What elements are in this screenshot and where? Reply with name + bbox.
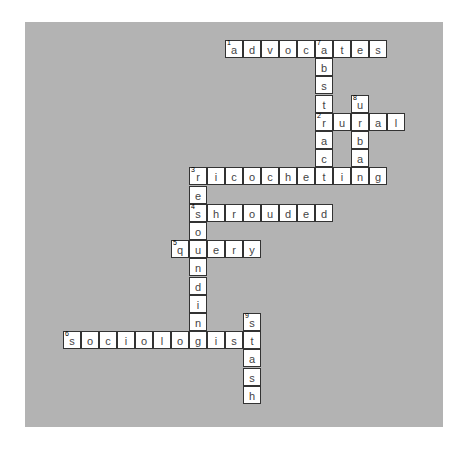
cell-letter: c [316, 150, 332, 168]
cell-letter: a [316, 132, 332, 150]
cell-letter: a [370, 114, 386, 132]
crossword-cell[interactable]: i [189, 295, 207, 313]
crossword-cell[interactable]: u [261, 204, 279, 222]
crossword-cell[interactable]: 3r [189, 167, 207, 185]
crossword-cell[interactable]: y [243, 240, 261, 258]
crossword-cell[interactable]: n [189, 313, 207, 331]
crossword-cell[interactable]: o [81, 331, 99, 349]
crossword-cell[interactable]: i [207, 331, 225, 349]
crossword-cell[interactable]: 9s [243, 313, 261, 331]
crossword-cell[interactable]: i [333, 167, 351, 185]
crossword-cell[interactable]: s [243, 368, 261, 386]
crossword-cell[interactable]: t [315, 167, 333, 185]
crossword-cell[interactable]: d [189, 277, 207, 295]
crossword-cell[interactable]: a [315, 131, 333, 149]
crossword-cell[interactable]: t [333, 40, 351, 58]
crossword-cell[interactable]: s [315, 76, 333, 94]
cell-letter: s [226, 332, 242, 350]
crossword-cell[interactable]: c [99, 331, 117, 349]
crossword-cell[interactable]: d [315, 204, 333, 222]
crossword-cell[interactable]: b [351, 131, 369, 149]
cell-letter: u [334, 114, 350, 132]
cell-letter: s [370, 41, 386, 59]
crossword-cell[interactable]: o [189, 222, 207, 240]
crossword-cell[interactable]: s [225, 331, 243, 349]
crossword-cell[interactable]: a [243, 349, 261, 367]
crossword-cell[interactable]: n [189, 258, 207, 276]
crossword-cell[interactable]: 1a [225, 40, 243, 58]
crossword-cell[interactable]: c [315, 149, 333, 167]
cell-letter: o [172, 332, 188, 350]
crossword-cell[interactable]: r [225, 240, 243, 258]
crossword-cell[interactable]: e [297, 167, 315, 185]
crossword-cell[interactable]: b [315, 58, 333, 76]
crossword-cell[interactable]: n [351, 167, 369, 185]
cell-letter: u [190, 241, 206, 259]
cell-letter: o [190, 223, 206, 241]
crossword-cell[interactable]: h [279, 167, 297, 185]
crossword-cell[interactable]: o [135, 331, 153, 349]
cell-letter: l [388, 114, 404, 132]
crossword-cell[interactable]: o [279, 40, 297, 58]
crossword-cell[interactable]: c [225, 167, 243, 185]
crossword-cell[interactable]: 2r [315, 113, 333, 131]
crossword-cell[interactable]: 8u [351, 95, 369, 113]
crossword-cell[interactable]: d [243, 40, 261, 58]
crossword-cell[interactable]: s [369, 40, 387, 58]
cell-letter: h [208, 205, 224, 223]
crossword-cell[interactable]: g [369, 167, 387, 185]
clue-number: 3 [191, 165, 195, 175]
crossword-cell[interactable]: l [153, 331, 171, 349]
crossword-cell[interactable]: g [189, 331, 207, 349]
cell-letter: i [118, 332, 134, 350]
crossword-cell[interactable]: r [225, 204, 243, 222]
crossword-cell[interactable]: h [207, 204, 225, 222]
cell-letter: i [190, 296, 206, 314]
crossword-cell[interactable]: t [243, 331, 261, 349]
crossword-cell[interactable]: l [387, 113, 405, 131]
cell-letter: b [316, 59, 332, 77]
cell-letter: o [244, 205, 260, 223]
crossword-cell[interactable]: e [297, 204, 315, 222]
crossword-cell[interactable]: 6s [63, 331, 81, 349]
cell-letter: r [352, 114, 368, 132]
crossword-cell[interactable]: u [333, 113, 351, 131]
crossword-board: 1advoc7atesbst2ract8urbanual3ricocheige4… [25, 22, 443, 427]
cell-letter: e [298, 205, 314, 223]
crossword-cell[interactable]: i [207, 167, 225, 185]
cell-letter: s [244, 369, 260, 387]
cell-letter: h [244, 387, 260, 405]
crossword-cell[interactable]: u [189, 240, 207, 258]
cell-letter: b [352, 132, 368, 150]
clue-number: 2 [317, 111, 321, 121]
crossword-cell[interactable]: a [369, 113, 387, 131]
cell-letter: y [244, 241, 260, 259]
cell-letter: l [154, 332, 170, 350]
crossword-cell[interactable]: o [171, 331, 189, 349]
cell-letter: n [190, 259, 206, 277]
crossword-cell[interactable]: h [243, 386, 261, 404]
clue-number: 8 [353, 93, 357, 103]
cell-letter: e [298, 168, 314, 186]
crossword-cell[interactable]: e [351, 40, 369, 58]
crossword-cell[interactable]: d [279, 204, 297, 222]
crossword-cell[interactable]: 5q [171, 240, 189, 258]
crossword-cell[interactable]: 7a [315, 40, 333, 58]
crossword-cell[interactable]: c [261, 167, 279, 185]
cell-letter: e [352, 41, 368, 59]
clue-number: 5 [173, 238, 177, 248]
crossword-cell[interactable]: e [207, 240, 225, 258]
cell-letter: o [244, 168, 260, 186]
crossword-cell[interactable]: o [243, 167, 261, 185]
crossword-cell[interactable]: a [351, 149, 369, 167]
clue-number: 4 [191, 202, 195, 212]
crossword-cell[interactable]: c [297, 40, 315, 58]
clue-number: 1 [227, 38, 231, 48]
crossword-cell[interactable]: i [117, 331, 135, 349]
cell-letter: o [136, 332, 152, 350]
cell-letter: g [370, 168, 386, 186]
crossword-cell[interactable]: r [351, 113, 369, 131]
crossword-cell[interactable]: 4s [189, 204, 207, 222]
crossword-cell[interactable]: o [243, 204, 261, 222]
crossword-cell[interactable]: v [261, 40, 279, 58]
